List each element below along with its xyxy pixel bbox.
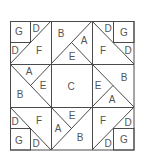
piece-label: B [58,28,65,39]
cell-top-middle: B A E [51,21,92,64]
piece-label: A [55,123,62,134]
quilt-block-diagram: G D D F B A E D G F D A E B C E B A [0,0,141,157]
piece-label: F [100,45,106,56]
piece-label: D [32,138,39,149]
piece-label: G [15,135,23,146]
piece-label: F [36,115,42,126]
piece-label: E [69,110,76,121]
cell-bottom-middle: A E B [51,107,92,150]
piece-label: B [121,72,128,83]
piece-label: F [100,115,106,126]
piece-label: A [81,35,88,46]
piece-label: E [95,80,102,91]
cell-middle-right: E B A [92,64,134,107]
piece-label: G [120,27,128,38]
piece-label: D [11,116,18,127]
cell-bottom-left: D F G D [10,107,51,150]
piece-label: D [124,117,131,128]
piece-label: D [104,138,111,149]
piece-label: D [11,45,18,56]
cell-top-left: G D D F [10,21,51,64]
piece-label: A [109,94,116,105]
piece-label: D [104,23,111,34]
cell-bottom-right: F D D G [92,107,134,150]
piece-label: G [15,26,23,37]
piece-label: F [36,45,42,56]
piece-label: D [32,23,39,34]
piece-label: C [67,81,74,92]
piece-label: B [17,89,24,100]
cell-middle-left: A E B [10,64,51,107]
piece-label: D [124,45,131,56]
piece-label: B [77,132,84,143]
piece-label: G [120,134,128,145]
cell-center: C [67,81,74,92]
piece-label: A [26,66,33,77]
piece-label: E [40,80,47,91]
cell-top-right: D G F D [92,21,134,64]
piece-label: E [69,51,76,62]
